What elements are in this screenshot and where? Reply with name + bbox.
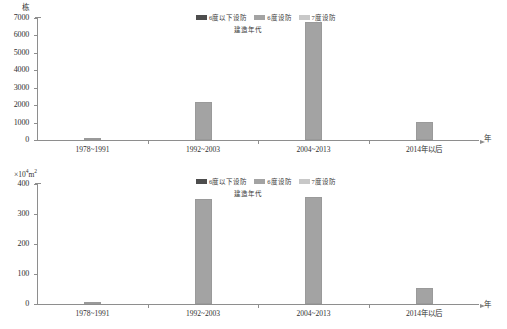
y-tick-top-7: 7000 [34, 18, 38, 19]
chart-page: 栋 6度以下设防 6度设防 7度设防 建造年代 [0, 0, 507, 329]
y-unit-base: ×10 [14, 170, 26, 179]
bar-top-2004-2013[interactable] [305, 22, 322, 141]
x-tick-label-bottom-1: 1978~1991 [75, 309, 109, 318]
y-axis-unit-label-bottom: ×104m2 [14, 167, 37, 179]
x-tick-top-1 [148, 141, 149, 144]
y-tick-label-bottom-4: 400 [18, 180, 29, 188]
x-tick-label-bottom-4: 2014年以后 [406, 309, 442, 318]
y-tick-label-bottom-1: 100 [18, 270, 29, 278]
y-tick-label-top-4: 4000 [14, 66, 29, 74]
y-tick-top-3: 3000 [34, 88, 38, 89]
y-tick-label-top-7: 7000 [14, 14, 29, 22]
bar-top-2014-after[interactable] [416, 122, 433, 140]
bar-bottom-1992-2003[interactable] [195, 199, 212, 304]
x-axis-name-top: 年 [484, 134, 491, 143]
x-tick-label-top-1: 1978~1991 [75, 145, 109, 154]
bar-bottom-2014-after[interactable] [416, 288, 433, 304]
x-tick-bottom-3 [369, 305, 370, 308]
y-tick-bottom-3: 300 [34, 214, 38, 215]
bar-top-1978-1991[interactable] [84, 138, 101, 140]
x-tick-top-2 [258, 141, 259, 144]
chart-floor-area: ×104m2 6度以下设防 6度设防 7度设防 建造年代 [0, 164, 507, 329]
plot-area-top: 0 1000 2000 3000 4000 5000 6000 7000 [37, 18, 479, 141]
plot-area-bottom: 0 100 200 300 400 1978~1991 1992~2 [37, 184, 479, 305]
y-tick-label-bottom-2: 200 [18, 240, 29, 248]
y-unit-tail-exp: 2 [34, 168, 37, 174]
y-tick-label-top-5: 5000 [14, 49, 29, 57]
y-tick-bottom-4: 400 [34, 184, 38, 185]
x-tick-label-bottom-3: 2004~2013 [296, 309, 330, 318]
y-tick-top-2: 2000 [34, 105, 38, 106]
y-tick-label-top-6: 6000 [14, 31, 29, 39]
x-tick-label-bottom-2: 1992~2003 [186, 309, 220, 318]
y-tick-bottom-2: 200 [34, 244, 38, 245]
y-tick-label-top-3: 3000 [14, 84, 29, 92]
y-tick-top-1: 1000 [34, 123, 38, 124]
y-tick-label-bottom-3: 300 [18, 210, 29, 218]
y-tick-label-top-0: 0 [25, 136, 29, 144]
x-axis-name-bottom: 年 [484, 300, 491, 309]
chart-buildings-count: 栋 6度以下设防 6度设防 7度设防 建造年代 [0, 0, 507, 165]
x-tick-label-top-2: 1992~2003 [186, 145, 220, 154]
y-tick-bottom-1: 100 [34, 274, 38, 275]
bar-bottom-2004-2013[interactable] [305, 197, 322, 304]
y-tick-top-0: 0 [34, 140, 38, 141]
x-tick-label-top-4: 2014年以后 [406, 145, 442, 154]
x-tick-top-3 [369, 141, 370, 144]
y-tick-label-top-2: 2000 [14, 101, 29, 109]
y-tick-label-top-1: 1000 [14, 119, 29, 127]
y-tick-top-5: 5000 [34, 53, 38, 54]
y-tick-top-6: 6000 [34, 35, 38, 36]
x-tick-label-top-3: 2004~2013 [296, 145, 330, 154]
y-tick-bottom-0: 0 [34, 304, 38, 305]
x-tick-bottom-2 [258, 305, 259, 308]
bar-top-1992-2003[interactable] [195, 102, 212, 140]
y-tick-top-4: 4000 [34, 70, 38, 71]
bar-bottom-1978-1991[interactable] [84, 302, 101, 304]
x-tick-bottom-1 [148, 305, 149, 308]
y-tick-label-bottom-0: 0 [25, 300, 29, 308]
y-axis-unit-label-top: 栋 [22, 3, 29, 12]
